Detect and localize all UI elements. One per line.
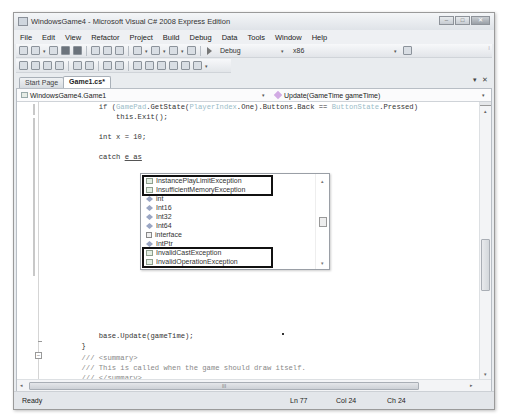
menu-window[interactable]: Window: [275, 33, 302, 42]
comment-out-icon[interactable]: [103, 61, 112, 70]
tab-controls: ▾ ✕: [473, 76, 488, 84]
save-all-icon[interactable]: [73, 46, 82, 55]
code-line: this.Exit();: [47, 112, 168, 122]
scroll-right-icon[interactable]: ▸: [470, 382, 473, 388]
previous-bookmark-folder-icon[interactable]: [169, 61, 178, 70]
scroll-up-icon[interactable]: ▴: [480, 106, 491, 116]
navigate-dropdown-icon[interactable]: ▾: [181, 48, 184, 54]
scroll-left-icon[interactable]: ◂: [20, 382, 23, 388]
toolbar-separator: [86, 46, 87, 56]
maximize-button[interactable]: □: [455, 16, 470, 25]
new-project-icon[interactable]: [19, 46, 28, 55]
status-text: Ready: [22, 397, 42, 404]
menu-debug[interactable]: Debug: [190, 33, 212, 42]
member-selector[interactable]: Update(GameTime gameTime) ▾: [271, 89, 491, 101]
menu-view[interactable]: View: [65, 33, 81, 42]
completion-item[interactable]: InvalidOperationException: [146, 257, 238, 267]
active-files-dropdown-icon[interactable]: ▾: [473, 76, 477, 84]
cut-icon[interactable]: [91, 46, 100, 55]
code-line: catch e as: [47, 152, 142, 162]
navigation-bar: WindowsGame4.Game1 ▾ Update(GameTime gam…: [17, 89, 491, 102]
tab-game1-cs[interactable]: Game1.cs*: [63, 76, 111, 88]
previous-bookmark-icon[interactable]: [145, 61, 154, 70]
code-line: /// This is called when the game should …: [47, 363, 306, 373]
chevron-down-icon: ▾: [394, 48, 400, 54]
navigate-forward-icon[interactable]: [187, 46, 196, 55]
find-in-files-icon[interactable]: [403, 46, 412, 55]
next-bookmark-folder-icon[interactable]: [181, 61, 190, 70]
paste-icon[interactable]: [115, 46, 124, 55]
code-line: int x = 10;: [47, 132, 146, 142]
app-icon: [18, 17, 28, 26]
scroll-down-icon[interactable]: ▾: [480, 369, 491, 379]
exception-class-icon: [146, 250, 153, 256]
start-debugging-icon[interactable]: [207, 47, 212, 55]
navigate-backward-icon[interactable]: [169, 46, 178, 55]
toolbar-separator: [68, 61, 69, 71]
class-icon: [21, 92, 28, 98]
redo-dropdown-icon[interactable]: ▾: [163, 48, 166, 54]
clear-bookmarks-icon[interactable]: [193, 61, 202, 70]
toolbar-separator: [128, 61, 129, 71]
intellisense-completion-list[interactable]: InstancePlayLimitException InsufficientM…: [140, 173, 330, 270]
close-document-icon[interactable]: ✕: [482, 76, 488, 84]
chevron-down-icon: ▾: [262, 92, 265, 98]
tab-start-page[interactable]: Start Page: [19, 77, 64, 88]
toolbar-separator: [128, 46, 129, 56]
toolbar-overflow-icon[interactable]: ▾: [205, 63, 208, 69]
vertical-scrollbar[interactable]: ▴ ▾: [479, 102, 491, 379]
struct-icon: [146, 214, 153, 220]
toolbar-options-icon[interactable]: ⁞: [488, 46, 490, 51]
menu-build[interactable]: Build: [163, 33, 180, 42]
minimize-button[interactable]: –: [439, 16, 454, 25]
outline-end-marker: [38, 341, 42, 342]
menu-project[interactable]: Project: [130, 33, 153, 42]
redo-icon[interactable]: [151, 46, 160, 55]
menu-tools[interactable]: Tools: [248, 33, 266, 42]
column-number: Col 24: [336, 397, 356, 404]
decrease-indent-icon[interactable]: [73, 61, 82, 70]
exception-class-icon: [146, 259, 153, 265]
title-bar[interactable]: WindowsGame4 - Microsoft Visual C# 2008 …: [14, 13, 494, 30]
menu-help[interactable]: Help: [312, 33, 327, 42]
menu-refactor[interactable]: Refactor: [91, 33, 119, 42]
scroll-up-icon[interactable]: ▴: [316, 178, 329, 184]
scroll-thumb[interactable]: [481, 239, 490, 291]
configuration-value: Debug: [220, 47, 241, 54]
save-icon[interactable]: [61, 46, 70, 55]
toggle-bookmark-icon[interactable]: [133, 61, 142, 70]
increase-indent-icon[interactable]: [85, 61, 94, 70]
change-marker: [33, 104, 35, 115]
horizontal-scroll-thumb[interactable]: III: [29, 382, 419, 390]
toolbar-separator: [200, 46, 201, 56]
copy-icon[interactable]: [103, 46, 112, 55]
collapse-icon[interactable]: −: [35, 352, 42, 359]
method-icon: [274, 91, 282, 99]
parameter-info-icon[interactable]: [43, 61, 52, 70]
undo-icon[interactable]: [133, 46, 142, 55]
word-completion-icon[interactable]: [55, 61, 64, 70]
completion-list-scrollbar[interactable]: ▴ ▾: [315, 174, 329, 269]
exception-class-icon: [146, 187, 153, 193]
scroll-thumb[interactable]: [319, 217, 327, 227]
solution-configuration-select[interactable]: Debug ▾: [217, 46, 287, 56]
object-browser-icon[interactable]: [19, 61, 28, 70]
list-members-icon[interactable]: [31, 61, 40, 70]
menu-data[interactable]: Data: [222, 33, 238, 42]
uncomment-icon[interactable]: [115, 61, 124, 70]
error-squiggle: e as: [125, 153, 142, 161]
solution-platform-select[interactable]: x86 ▾: [290, 46, 400, 56]
open-file-icon[interactable]: [49, 46, 58, 55]
next-bookmark-icon[interactable]: [157, 61, 166, 70]
code-line: /// <summary>: [47, 353, 138, 363]
class-selector[interactable]: WindowsGame4.Game1 ▾: [17, 89, 271, 101]
close-button[interactable]: ✕: [471, 16, 490, 25]
menu-edit[interactable]: Edit: [42, 33, 55, 42]
add-item-icon[interactable]: [31, 46, 40, 55]
add-item-dropdown-icon[interactable]: ▾: [43, 48, 46, 54]
scroll-down-icon[interactable]: ▾: [316, 260, 329, 266]
chevron-down-icon: ▾: [281, 48, 287, 54]
undo-dropdown-icon[interactable]: ▾: [145, 48, 148, 54]
struct-icon: [146, 205, 153, 211]
menu-file[interactable]: File: [20, 33, 32, 42]
